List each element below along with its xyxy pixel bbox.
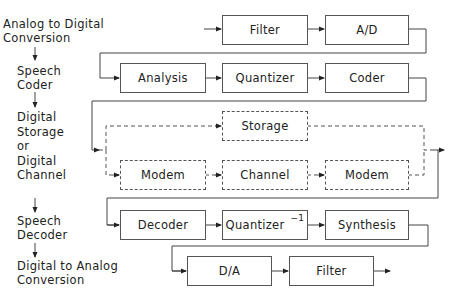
block-ad-converter: A/D xyxy=(325,15,409,45)
stage-line: Digital to Analog xyxy=(17,259,118,273)
stage-line: Digital xyxy=(17,154,66,169)
stage-line: Digital xyxy=(17,110,66,125)
block-synthesis: Synthesis xyxy=(325,210,409,240)
block-channel: Channel xyxy=(222,160,308,190)
stage-analog-to-digital: Analog to Digital Conversion xyxy=(3,17,104,45)
block-modem-tx: Modem xyxy=(120,160,206,190)
block-analysis: Analysis xyxy=(120,63,206,93)
stage-line: Decoder xyxy=(17,228,68,242)
block-coder: Coder xyxy=(325,63,409,93)
inverse-quantizer-label: Quantizer xyxy=(226,218,285,232)
stage-line: Coder xyxy=(17,78,61,92)
stage-speech-coder: Speech Coder xyxy=(17,64,61,92)
inverse-superscript: −1 xyxy=(291,213,305,223)
block-filter-input: Filter xyxy=(222,15,308,45)
stage-digital-storage-channel: Digital Storage or Digital Channel xyxy=(17,110,66,183)
stage-line: Speech xyxy=(17,214,68,228)
stage-line: Speech xyxy=(17,64,61,78)
block-filter-output: Filter xyxy=(289,256,374,286)
block-inverse-quantizer: Quantizer−1 xyxy=(222,210,308,240)
stage-line: Channel xyxy=(17,168,66,183)
block-storage: Storage xyxy=(222,111,308,141)
block-quantizer: Quantizer xyxy=(222,63,308,93)
block-decoder: Decoder xyxy=(120,210,206,240)
stage-speech-decoder: Speech Decoder xyxy=(17,214,68,242)
stage-line: or xyxy=(17,139,66,154)
block-da-converter: D/A xyxy=(187,256,272,286)
stage-line: Conversion xyxy=(3,31,104,45)
stage-line: Storage xyxy=(17,125,66,140)
stage-digital-to-analog: Digital to Analog Conversion xyxy=(17,259,118,287)
stage-line: Analog to Digital xyxy=(3,17,104,31)
stage-line: Conversion xyxy=(17,273,118,287)
block-modem-rx: Modem xyxy=(325,160,409,190)
